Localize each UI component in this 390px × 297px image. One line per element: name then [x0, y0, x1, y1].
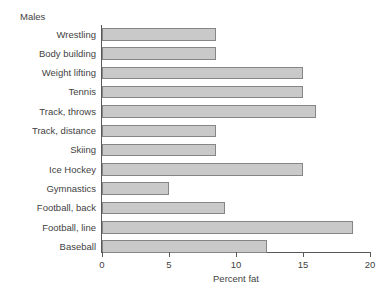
bar-row: Wrestling — [0, 26, 390, 45]
category-label: Track, distance — [32, 125, 96, 137]
category-label: Ice Hockey — [49, 164, 96, 176]
bar-row: Gymnastics — [0, 180, 390, 199]
category-label: Wrestling — [57, 29, 96, 41]
plot-area: WrestlingBody buildingWeight liftingTenn… — [0, 0, 390, 297]
category-label: Football, back — [37, 202, 96, 214]
category-label: Skiing — [70, 144, 96, 156]
x-axis-title: Percent fat — [213, 273, 259, 285]
bar — [102, 182, 169, 195]
bar — [102, 221, 353, 234]
bar-row: Track, throws — [0, 103, 390, 122]
bar-chart: Males WrestlingBody buildingWeight lifti… — [0, 0, 390, 297]
x-tick-label: 15 — [298, 259, 309, 271]
x-tick — [102, 252, 103, 257]
bar — [102, 125, 216, 138]
bar-row: Track, distance — [0, 122, 390, 141]
bar-row: Body building — [0, 45, 390, 64]
bar-row: Skiing — [0, 141, 390, 160]
category-label: Weight lifting — [42, 67, 96, 79]
x-tick — [169, 252, 170, 257]
bar-row: Ice Hockey — [0, 161, 390, 180]
bar — [102, 67, 303, 80]
bar — [102, 86, 303, 99]
x-tick — [303, 252, 304, 257]
bar — [102, 240, 267, 253]
x-tick-label: 10 — [231, 259, 242, 271]
category-label: Body building — [39, 48, 96, 60]
bar-row: Weight lifting — [0, 64, 390, 83]
bar — [102, 105, 316, 118]
category-label: Track, throws — [39, 106, 96, 118]
category-label: Football, line — [42, 222, 96, 234]
x-tick — [370, 252, 371, 257]
bar — [102, 47, 216, 60]
category-label: Baseball — [60, 241, 96, 253]
bar-row: Football, back — [0, 199, 390, 218]
bar-row: Baseball — [0, 238, 390, 257]
bar — [102, 144, 216, 157]
x-tick-label: 0 — [99, 259, 104, 271]
x-tick-label: 5 — [166, 259, 171, 271]
x-tick — [236, 252, 237, 257]
bar-row: Tennis — [0, 83, 390, 102]
bar — [102, 28, 216, 41]
category-label: Tennis — [69, 86, 96, 98]
bar — [102, 202, 225, 215]
x-tick-label: 20 — [365, 259, 376, 271]
bar-row: Football, line — [0, 219, 390, 238]
bar — [102, 163, 303, 176]
category-label: Gymnastics — [46, 183, 96, 195]
